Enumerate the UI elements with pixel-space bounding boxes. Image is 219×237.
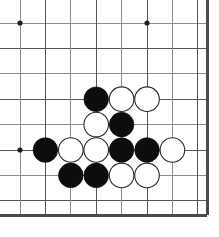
star-point-bottom-left [17,147,22,152]
stone-black-c4r5[interactable] [109,138,134,163]
stone-black-c3r3[interactable] [84,87,109,112]
stone-white-c5r3[interactable] [135,87,160,112]
star-point-top-right [144,20,149,25]
stone-white-c5r6[interactable] [135,163,160,188]
stone-white-c6r5[interactable] [160,138,185,163]
stone-black-c4r4[interactable] [109,112,134,137]
stone-black-c5r5[interactable] [135,138,160,163]
stones-layer[interactable] [33,87,185,188]
stone-white-c2r5[interactable] [59,138,84,163]
stone-black-c1r5[interactable] [33,138,58,163]
stone-black-c2r6[interactable] [59,163,84,188]
stone-black-c3r6[interactable] [84,163,109,188]
stone-white-c4r3[interactable] [109,87,134,112]
star-point-top-left [17,20,22,25]
stone-white-c4r6[interactable] [109,163,134,188]
goban-svg[interactable] [0,0,219,237]
go-board[interactable] [0,0,219,237]
stone-white-c3r5[interactable] [84,138,109,163]
stone-white-c3r4[interactable] [84,112,109,137]
